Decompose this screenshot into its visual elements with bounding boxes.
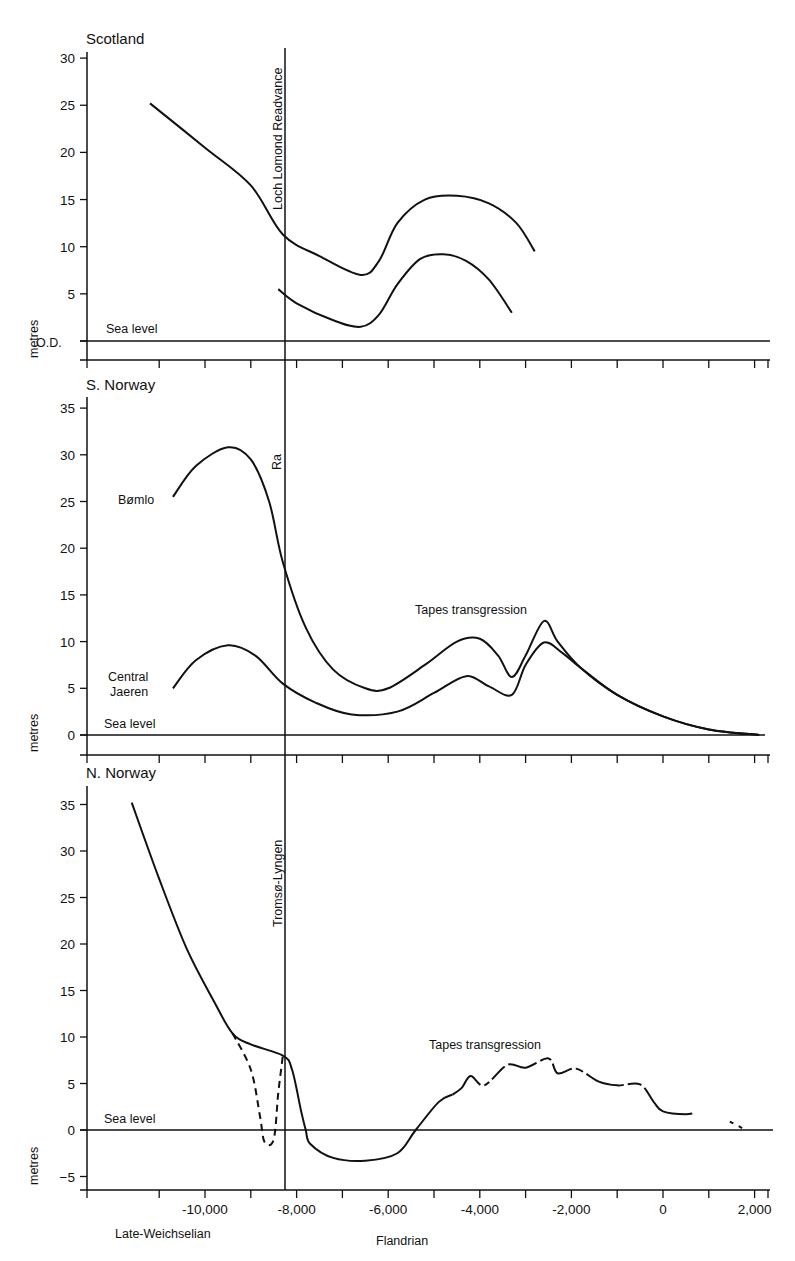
bomlo-label: Bømlo — [118, 493, 154, 507]
sea-level-chart: Scotland 30252015105 Sea level O.D. metr… — [0, 0, 795, 1261]
series-s-norway — [173, 447, 759, 735]
x-ticks-s-norway — [87, 755, 768, 763]
x-tick-label: -2,000 — [552, 1202, 590, 1217]
y-tick-label: 30 — [60, 844, 75, 859]
x-tick-label: -8,000 — [277, 1202, 315, 1217]
tapes-label: Tapes transgression — [429, 1038, 541, 1052]
panel-title-s-norway: S. Norway — [86, 376, 156, 393]
y-tick-label: 25 — [60, 98, 75, 113]
y-tick-label: 10 — [60, 1030, 75, 1045]
series-line — [173, 447, 759, 735]
y-tick-label: 35 — [60, 401, 75, 416]
x-ticks-n-norway — [87, 1190, 768, 1198]
x-tick-label: 0 — [659, 1202, 667, 1217]
series-n-norway — [132, 803, 746, 1161]
panel-title-n-norway: N. Norway — [86, 764, 157, 781]
tromso-lyngen-label: Tromsø-Lyngen — [271, 840, 285, 927]
y-axis-s-norway: 35302520151050 — [60, 401, 87, 743]
y-tick-label: 20 — [60, 541, 75, 556]
x-tick-labels: -10,000-8,000-6,000-4,000-2,00002,000 — [182, 1202, 771, 1217]
y-tick-label: 15 — [60, 588, 75, 603]
y-tick-label: 35 — [60, 798, 75, 813]
late-weichselian-label: Late-Weichselian — [115, 1227, 211, 1241]
y-tick-label: 10 — [60, 240, 75, 255]
series-line — [278, 254, 512, 327]
panel-title-scotland: Scotland — [86, 30, 144, 47]
y-tick-label: 15 — [60, 193, 75, 208]
y-axis-n-norway: 35302520151050−5 — [60, 798, 87, 1185]
y-axis-scotland: 30252015105 — [60, 51, 87, 341]
y-tick-label: 15 — [60, 984, 75, 999]
x-tick-label: -4,000 — [461, 1202, 499, 1217]
y-tick-label: 25 — [60, 495, 75, 510]
loch-lomond-label: Loch Lomond Readvance — [271, 67, 285, 210]
ra-label: Ra — [270, 454, 284, 470]
series-line — [173, 642, 759, 735]
panel-n-norway: N. Norway 35302520151050−5 Sea level met… — [27, 755, 773, 1248]
y-tick-label: 20 — [60, 937, 75, 952]
sea-level-label: Sea level — [106, 322, 157, 336]
x-tick-label: 2,000 — [738, 1202, 772, 1217]
y-tick-label: 0 — [67, 728, 75, 743]
flandrian-label: Flandrian — [376, 1234, 428, 1248]
sea-level-label: Sea level — [104, 717, 155, 731]
y-axis-label-metres: metres — [27, 714, 41, 752]
jaeren-label: Jaeren — [110, 685, 148, 699]
y-tick-label: 20 — [60, 145, 75, 160]
x-tick-label: -6,000 — [369, 1202, 407, 1217]
series-line — [132, 803, 453, 1161]
y-tick-label: −5 — [60, 1170, 75, 1185]
panel-scotland: Scotland 30252015105 Sea level O.D. metr… — [27, 30, 770, 368]
y-tick-label: 30 — [60, 448, 75, 463]
y-axis-label-metres: metres — [27, 1147, 41, 1185]
tapes-label: Tapes transgression — [415, 603, 527, 617]
y-tick-label: 25 — [60, 891, 75, 906]
y-tick-label: 5 — [67, 287, 75, 302]
series-line — [232, 1033, 282, 1145]
central-label: Central — [108, 670, 148, 684]
panel-s-norway: S. Norway 35302520151050 Sea level metre… — [27, 360, 770, 763]
series-line — [452, 1058, 745, 1130]
y-tick-label: 10 — [60, 635, 75, 650]
y-tick-label: 0 — [67, 1123, 75, 1138]
x-ticks-scotland — [87, 360, 768, 368]
x-tick-label: -10,000 — [182, 1202, 228, 1217]
y-tick-label: 5 — [67, 1077, 75, 1092]
y-axis-label-metres: metres — [27, 320, 41, 358]
series-line — [150, 103, 535, 275]
y-tick-label: 30 — [60, 51, 75, 66]
sea-level-label: Sea level — [104, 1112, 155, 1126]
series-scotland — [150, 103, 535, 327]
y-tick-label: 5 — [67, 681, 75, 696]
